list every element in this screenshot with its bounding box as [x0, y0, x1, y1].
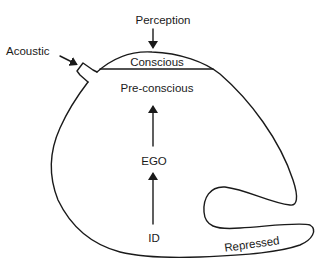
id-label: ID	[148, 232, 160, 244]
acoustic-arrow	[60, 56, 76, 64]
preconscious-label: Pre-conscious	[121, 82, 194, 94]
acoustic-cap	[77, 63, 97, 82]
acoustic-label: Acoustic	[6, 45, 50, 57]
psyche-diagram: Perception Acoustic Conscious Pre-consci…	[0, 0, 326, 264]
conscious-label: Conscious	[130, 56, 184, 68]
perception-label: Perception	[136, 14, 191, 26]
ego-label: EGO	[141, 155, 167, 167]
